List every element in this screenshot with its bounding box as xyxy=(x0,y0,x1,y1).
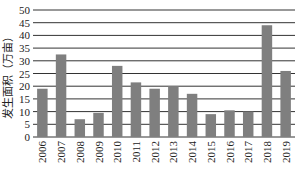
bar-2010 xyxy=(112,66,122,137)
x-tick-label: 2016 xyxy=(224,141,236,164)
bar-2009 xyxy=(93,113,103,137)
bar-2018 xyxy=(262,25,272,137)
bar-2019 xyxy=(280,71,290,137)
x-tick-label: 2014 xyxy=(186,141,198,164)
bar-2015 xyxy=(206,114,216,137)
bar-2017 xyxy=(243,112,253,137)
x-tick-label: 2018 xyxy=(261,141,273,164)
x-tick-label: 2009 xyxy=(93,141,105,164)
x-tick-label: 2017 xyxy=(242,141,254,164)
bar-2013 xyxy=(168,86,178,137)
y-tick-label: 10 xyxy=(19,106,31,118)
x-tick-label: 2011 xyxy=(130,141,142,163)
y-tick-label: 5 xyxy=(25,118,31,130)
x-tick-label: 2010 xyxy=(111,141,123,164)
bar-2007 xyxy=(56,54,66,137)
y-tick-label: 15 xyxy=(19,93,31,105)
x-tick-label: 2015 xyxy=(205,141,217,164)
bars xyxy=(37,25,291,137)
y-tick-label: 30 xyxy=(19,55,31,67)
bar-2012 xyxy=(149,89,159,137)
y-axis-ticks: 05101520253035404550 xyxy=(19,4,31,143)
x-tick-label: 2019 xyxy=(280,141,292,164)
bar-2011 xyxy=(131,82,141,137)
bar-2006 xyxy=(37,89,47,137)
x-tick-label: 2007 xyxy=(55,141,67,164)
bar-2014 xyxy=(187,94,197,137)
y-tick-label: 35 xyxy=(19,42,31,54)
bar-2016 xyxy=(224,110,234,137)
x-tick-label: 2008 xyxy=(74,141,86,164)
y-axis-label: 发生面积（万亩） xyxy=(1,31,14,119)
x-tick-label: 2006 xyxy=(36,141,48,164)
y-tick-label: 25 xyxy=(19,68,31,80)
bar-chart: 05101520253035404550 2006200720082009201… xyxy=(0,0,300,178)
bar-2008 xyxy=(75,119,85,137)
gridlines xyxy=(33,10,295,137)
y-tick-label: 0 xyxy=(25,131,31,143)
x-axis-ticks: 2006200720082009201020112012201320142015… xyxy=(36,141,291,164)
y-tick-label: 40 xyxy=(19,29,31,41)
y-tick-label: 45 xyxy=(19,17,31,29)
y-tick-label: 50 xyxy=(19,4,31,16)
x-tick-label: 2012 xyxy=(149,141,161,163)
y-tick-label: 20 xyxy=(19,80,31,92)
x-tick-label: 2013 xyxy=(167,141,179,164)
